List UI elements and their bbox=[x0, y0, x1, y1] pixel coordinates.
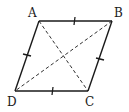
tick-CD bbox=[52, 87, 53, 95]
side-DA bbox=[15, 21, 39, 91]
rhombus-diagram: A B C D bbox=[0, 0, 129, 112]
vertex-label-A: A bbox=[27, 6, 37, 20]
diagonal-AC bbox=[39, 21, 88, 91]
vertex-label-D: D bbox=[7, 95, 17, 109]
tick-AB bbox=[74, 17, 75, 25]
vertex-label-B: B bbox=[114, 6, 123, 20]
vertex-label-C: C bbox=[85, 95, 94, 109]
side-BC bbox=[88, 21, 112, 91]
tick-BC bbox=[96, 58, 104, 60]
